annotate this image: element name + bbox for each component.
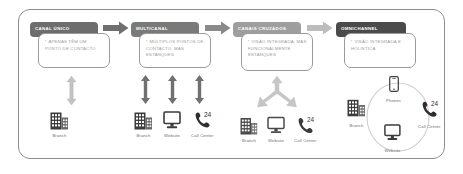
monitor-icon (384, 124, 401, 146)
stage-card-text: VISÃO INTEGRADA E HOLÍSTICA (351, 39, 410, 52)
arrow-right-icon-3 (307, 21, 333, 35)
phone-badge-number: 24 (307, 116, 315, 123)
channel-label: Website (268, 138, 284, 143)
channel-branch[interactable]: Branch (347, 98, 366, 128)
stage-header-label: CANAL ÚNICO (35, 27, 70, 31)
building-icon (50, 110, 69, 130)
channel-icons-canal-unico: Branch (50, 110, 69, 138)
stage-card-text: VISÃO INTEGRADA, MAS FUNCIONALMENTE ESTA… (248, 39, 307, 59)
channel-label: Branch (136, 133, 150, 138)
double-vertical-arrow-icon (167, 75, 178, 104)
phone-24-icon: 24 (295, 115, 316, 135)
double-vertical-arrow-icon (140, 75, 151, 104)
stage-card-omnichannel: VISÃO INTEGRADA E HOLÍSTICA (344, 33, 416, 68)
building-icon (347, 98, 366, 121)
stage-card-canais-cruzados: VISÃO INTEGRADA, MAS FUNCIONALMENTE ESTA… (241, 33, 313, 71)
channel-call-center[interactable]: 24 Call Center (418, 100, 441, 129)
omnichannel-circle: Phones 24 Call Center (348, 78, 448, 156)
channel-branch[interactable]: Branch (50, 110, 69, 138)
channel-label: Call Center (418, 124, 441, 129)
channel-label: Call Center (191, 133, 214, 138)
stage-card-canal-unico: APENAS TÊM UM PONTO DE CONTACTO (38, 33, 110, 68)
channel-icons-canais-cruzados: Branch Website 24 (240, 115, 317, 143)
channel-phones[interactable]: Phones (386, 76, 401, 103)
channel-label: Branch (52, 133, 66, 138)
phone-24-icon: 24 (192, 110, 213, 130)
arrow-right-icon-2 (205, 21, 231, 35)
diagram-canvas: CANAL ÚNICO APENAS TÊM UM PONTO DE CONTA… (0, 0, 463, 174)
channel-label: Website (384, 148, 400, 153)
monitor-icon (267, 115, 285, 135)
channel-branch[interactable]: Branch (240, 115, 258, 143)
channel-website[interactable]: Website (267, 115, 285, 143)
building-icon (134, 110, 153, 130)
channel-website[interactable]: Website (163, 110, 181, 138)
converging-merge-arrow-icon (253, 76, 301, 109)
stage-card-text: MÚLTIPLOS PONTOS DE CONTACTO, MAS ESTANQ… (146, 39, 205, 59)
channel-label: Website (164, 133, 180, 138)
stage-card-multicanal: MÚLTIPLOS PONTOS DE CONTACTO, MAS ESTANQ… (139, 33, 211, 68)
channel-label: Branch (349, 123, 363, 128)
channel-label: Phones (386, 98, 401, 103)
stage-header-label: MULTICANAL (136, 27, 168, 31)
channel-label: Branch (242, 138, 256, 143)
channel-branch[interactable]: Branch (134, 110, 153, 138)
phone-24-icon: 24 (419, 100, 440, 122)
smartphone-icon (389, 76, 399, 96)
stage-card-text: APENAS TÊM UM PONTO DE CONTACTO (45, 39, 104, 52)
stage-header-label: OMNICHANNEL (341, 27, 378, 31)
channel-call-center[interactable]: 24 Call Center (191, 110, 214, 138)
channel-call-center[interactable]: 24 Call Center (294, 115, 317, 143)
channel-label: Call Center (294, 138, 317, 143)
monitor-icon (163, 110, 181, 130)
double-vertical-arrow-icon (194, 75, 205, 104)
phone-badge-number: 24 (204, 111, 212, 118)
building-icon (240, 115, 258, 135)
arrow-right-icon-1 (103, 21, 129, 35)
channel-website[interactable]: Website (384, 124, 401, 153)
phone-badge-number: 24 (431, 100, 439, 107)
double-vertical-arrow-icon (66, 76, 77, 105)
stage-header-label: CANAIS CRUZADOS (238, 27, 286, 31)
channel-icons-multicanal: Branch Website 24 (134, 110, 214, 138)
